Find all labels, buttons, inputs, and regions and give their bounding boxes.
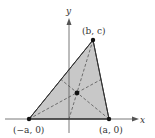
vertex-left-point [27,117,31,121]
vertex-top-point [91,38,95,42]
vertex-right-point [107,117,111,121]
centroid-point [75,91,80,96]
triangle-centroid-diagram: x y (b, c) (−a, 0) (a, 0) [0,0,155,138]
vertex-left-label: (−a, 0) [13,125,44,135]
vertex-right-label: (a, 0) [99,125,123,135]
x-axis-label: x [140,115,145,125]
y-axis-label: y [65,6,72,16]
vertex-top-label: (b, c) [82,26,106,36]
y-axis-arrow-icon [67,18,72,25]
x-axis-arrow-icon [132,117,139,122]
